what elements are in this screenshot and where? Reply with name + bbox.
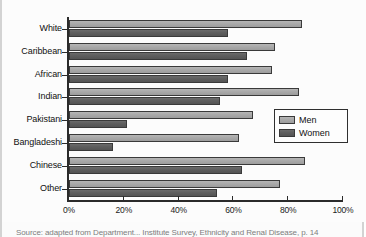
bar-women-chinese xyxy=(69,166,242,174)
category-row: Other xyxy=(2,178,366,201)
bar-women-white xyxy=(69,29,228,37)
category-tick xyxy=(62,143,68,144)
category-row: White xyxy=(2,18,366,41)
bar-chart: WhiteCaribbeanAfricanIndianPakistaniBang… xyxy=(2,0,366,222)
x-tick-label: 60% xyxy=(213,205,253,215)
x-tick xyxy=(68,196,69,202)
bar-women-other xyxy=(69,189,217,197)
x-tick-label: 100% xyxy=(323,205,363,215)
category-label: Indian xyxy=(2,91,62,101)
x-tick xyxy=(178,196,179,202)
bar-women-bangladeshi xyxy=(69,143,113,151)
bar-men-white xyxy=(69,20,302,28)
bar-women-african xyxy=(69,75,228,83)
category-label: Other xyxy=(2,183,62,193)
bar-men-other xyxy=(69,180,280,188)
category-row: Chinese xyxy=(2,155,366,178)
category-row: Indian xyxy=(2,86,366,109)
category-tick xyxy=(62,97,68,98)
category-label: Pakistani xyxy=(2,114,62,124)
x-tick-label: 20% xyxy=(104,205,144,215)
x-tick-label: 40% xyxy=(159,205,199,215)
figure-caption: Source: adapted from Department... Insti… xyxy=(16,228,356,237)
category-label: Chinese xyxy=(2,160,62,170)
bar-men-bangladeshi xyxy=(69,134,239,142)
bar-men-caribbean xyxy=(69,43,275,51)
x-tick-label: 0% xyxy=(49,205,89,215)
bar-women-indian xyxy=(69,97,220,105)
bar-men-chinese xyxy=(69,157,305,165)
bar-men-african xyxy=(69,66,272,74)
bar-women-pakistani xyxy=(69,120,127,128)
legend-label-men: Men xyxy=(299,115,317,125)
category-row: African xyxy=(2,64,366,87)
category-label: Caribbean xyxy=(2,46,62,56)
bar-women-caribbean xyxy=(69,52,247,60)
chart-legend: Men Women xyxy=(274,109,348,143)
category-tick xyxy=(62,120,68,121)
category-tick xyxy=(62,75,68,76)
category-tick xyxy=(62,189,68,190)
x-tick xyxy=(123,196,124,202)
men-swatch-icon xyxy=(279,116,295,124)
legend-item-women: Women xyxy=(279,126,343,139)
category-label: Bangladeshi xyxy=(2,137,62,147)
x-tick xyxy=(287,196,288,202)
category-row: Caribbean xyxy=(2,41,366,64)
x-tick-label: 80% xyxy=(268,205,308,215)
category-tick xyxy=(62,166,68,167)
women-swatch-icon xyxy=(279,129,295,137)
category-label: White xyxy=(2,23,62,33)
category-label: African xyxy=(2,69,62,79)
category-tick xyxy=(62,52,68,53)
bar-men-indian xyxy=(69,88,299,96)
x-tick xyxy=(232,196,233,202)
category-tick xyxy=(62,29,68,30)
x-tick xyxy=(342,196,343,202)
bar-men-pakistani xyxy=(69,111,253,119)
legend-item-men: Men xyxy=(279,113,343,126)
legend-label-women: Women xyxy=(299,128,330,138)
